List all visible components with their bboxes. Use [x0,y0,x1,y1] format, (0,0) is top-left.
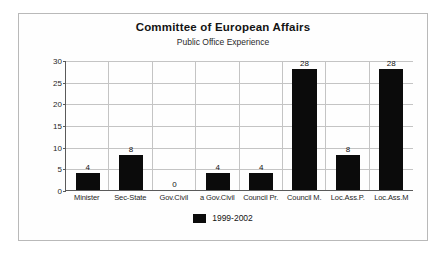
x-axis-category-label: Gov.Civil [152,193,196,202]
bar-slot: 8 [326,61,369,190]
chart-frame: Committee of European Affairs Public Off… [18,13,428,241]
x-axis-category-label: Council M. [283,193,327,202]
bar-slot: 4 [240,61,283,190]
chart-title: Committee of European Affairs [19,21,427,33]
bar-value-label: 8 [129,145,133,154]
y-axis-tick-label: 15 [53,122,62,131]
x-axis-category-label: Loc.Ass.P. [326,193,370,202]
y-axis-tick-label: 30 [53,57,62,66]
bar: 4 [206,173,230,190]
y-axis-tick-label: 0 [58,187,62,196]
x-axis-category-label: Loc.Ass.M [370,193,414,202]
bar-value-label: 4 [216,163,220,172]
bar-value-label: 8 [346,145,350,154]
y-axis-tick-mark [63,191,66,192]
bar: 28 [292,69,316,190]
bar-value-label: 28 [300,59,309,68]
y-axis-tick-label: 20 [53,100,62,109]
bar: 4 [249,173,273,190]
bar-slot: 4 [196,61,239,190]
y-axis-tick-label: 5 [58,165,62,174]
chart-legend: 1999-2002 [19,213,427,223]
bar-slot: 0 [153,61,196,190]
bar-slot: 28 [370,61,413,190]
bar: 28 [379,69,403,190]
x-axis-category-label: Council Pr. [239,193,283,202]
bar-slot: 8 [109,61,152,190]
y-axis-tick-label: 10 [53,143,62,152]
plot-area: 051015202530 4804428828 [65,61,413,191]
y-axis-tick-label: 25 [53,78,62,87]
bar-value-label: 0 [172,180,176,189]
legend-label: 1999-2002 [212,213,253,223]
bar: 8 [336,155,360,190]
x-axis-category-labels: MinisterSec-StateGov.Civila Gov.CivilCou… [65,193,413,202]
bar-slot: 4 [66,61,109,190]
x-axis-category-label: a Gov.Civil [196,193,240,202]
bar-value-label: 4 [85,163,89,172]
chart-subtitle: Public Office Experience [19,37,427,47]
bar: 8 [119,155,143,190]
bar-value-label: 28 [387,59,396,68]
bar-value-label: 4 [259,163,263,172]
bar-slot: 28 [283,61,326,190]
x-axis-category-label: Sec-State [109,193,153,202]
bar: 4 [76,173,100,190]
bar-series-1999-2002: 4804428828 [66,61,413,190]
x-axis-category-label: Minister [65,193,109,202]
legend-swatch-icon [193,214,206,223]
